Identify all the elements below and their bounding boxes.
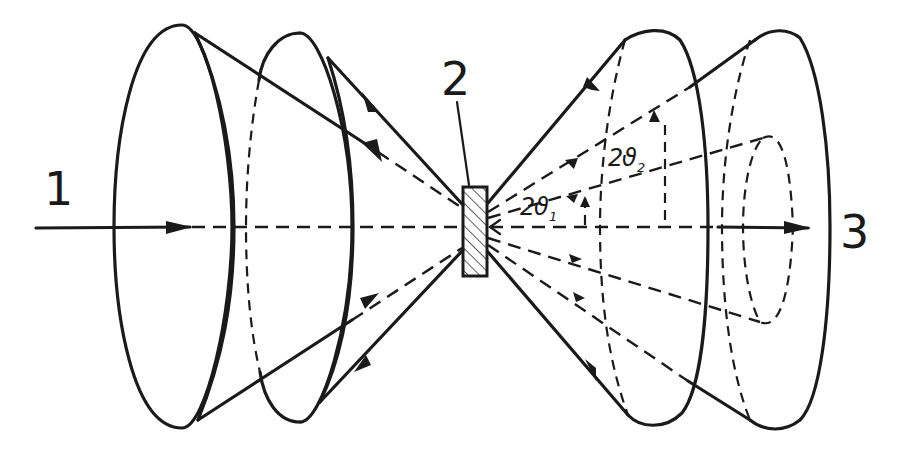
label-incident-beam: 1: [44, 162, 73, 216]
arrow-inner-top: [566, 194, 578, 203]
right-cone-b-generator-top-solid: [690, 40, 755, 87]
arrow-left-outer-top: [362, 139, 382, 162]
right-cone-b-ellipse-back: [722, 40, 750, 420]
right-cone-a-generator-top: [488, 40, 625, 203]
right-cone-b: [488, 31, 830, 429]
label-angle-1: 2 ϑ 1: [520, 193, 557, 224]
label-angle-2: 2 ϑ 2: [608, 144, 645, 175]
sample-body: [463, 187, 487, 276]
angle2-subscript: 2: [637, 160, 645, 175]
right-cone-b-generator-bottom-solid: [688, 381, 750, 420]
angle1-symbol: ϑ: [534, 193, 549, 221]
label-sample: 2: [441, 52, 470, 106]
arrow-right-b-bottom: [573, 292, 585, 302]
arrow-inner-bottom: [569, 254, 582, 263]
left-inner-ellipse-top: [259, 33, 300, 80]
label-transmitted-beam: 3: [840, 205, 869, 259]
transmitted-beam: [490, 220, 811, 234]
diagram-svg: 1 2 3 2 ϑ 1 2 ϑ 2: [0, 0, 899, 449]
angle1-arrow: [580, 196, 590, 207]
sample-leader-line: [457, 102, 469, 185]
arrow-left-outer-bottom: [360, 293, 379, 309]
left-inner-ellipse-bottom: [260, 372, 300, 422]
right-cone-b-generator-top-dashed: [488, 87, 690, 212]
inner-cone-generator-bottom: [488, 238, 760, 322]
incident-beam-arrow: [166, 221, 192, 234]
diagram-canvas: 1 2 3 2 ϑ 1 2 ϑ 2: [0, 0, 899, 449]
left-outer-generator-top: [195, 33, 378, 152]
angle2-symbol: ϑ: [622, 144, 637, 172]
sample: [457, 102, 487, 276]
incident-beam: [36, 221, 462, 234]
angle1-coefficient: 2: [520, 193, 535, 221]
transmitted-beam-arrow: [784, 221, 811, 234]
right-cone-b-generator-bottom-dashed: [488, 245, 688, 381]
angle1-subscript: 1: [549, 209, 557, 224]
angle2-coefficient: 2: [608, 144, 623, 172]
